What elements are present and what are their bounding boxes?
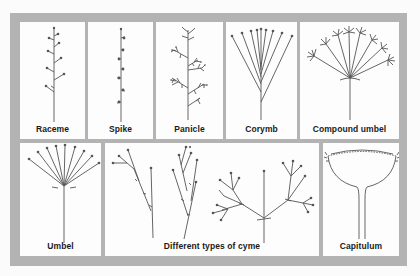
label-cyme: Different types of cyme (105, 241, 319, 251)
corymb-illustration (226, 22, 297, 139)
label-compound-umbel: Compound umbel (300, 124, 399, 134)
compound-umbel-illustration (300, 22, 399, 139)
label-corymb: Corymb (226, 124, 297, 134)
label-raceme: Raceme (20, 124, 85, 134)
panel-raceme: Raceme (20, 22, 85, 139)
panicle-illustration (156, 22, 223, 139)
panel-compound-umbel: Compound umbel (300, 22, 399, 139)
capitulum-illustration (323, 143, 399, 256)
label-capitulum: Capitulum (323, 241, 399, 251)
panel-umbel: Umbel (20, 143, 101, 256)
panel-corymb: Corymb (226, 22, 297, 139)
spike-illustration (88, 22, 153, 139)
label-spike: Spike (88, 124, 153, 134)
umbel-illustration (20, 143, 101, 256)
panel-capitulum: Capitulum (323, 143, 399, 256)
cyme-illustration (105, 143, 319, 256)
label-umbel: Umbel (20, 241, 101, 251)
panel-cyme: Different types of cyme (105, 143, 319, 256)
panel-spike: Spike (88, 22, 153, 139)
raceme-illustration (20, 22, 85, 139)
panel-panicle: Panicle (156, 22, 223, 139)
label-panicle: Panicle (156, 124, 223, 134)
